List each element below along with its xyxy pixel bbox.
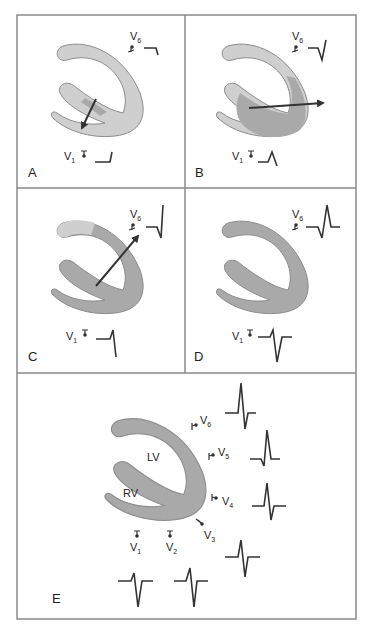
heart-diagram xyxy=(105,419,206,521)
electrode-icon xyxy=(292,45,298,52)
ecg-trace-v4 xyxy=(252,483,286,520)
lead-label-v6: V6 xyxy=(200,414,211,428)
electrode-icon xyxy=(129,223,135,230)
ecg-trace-v5 xyxy=(250,430,280,466)
lead-label-v6: V6 xyxy=(292,30,303,44)
lead-label-v1: V1 xyxy=(64,150,75,164)
ecg-trace-v6 xyxy=(225,383,256,429)
ecg-trace-v6 xyxy=(144,48,158,55)
heart-diagram xyxy=(51,44,143,136)
panel-label: D xyxy=(194,349,203,364)
lead-label-v1: V1 xyxy=(232,330,243,344)
lead-label-v1: V1 xyxy=(130,541,141,555)
electrode-icon xyxy=(209,453,215,460)
panel-c: V6 V1 C xyxy=(28,205,163,364)
electrode-icon xyxy=(134,531,140,538)
electrode-icon xyxy=(128,45,134,52)
ecg-trace-v6 xyxy=(308,40,326,60)
ecg-trace-v6 xyxy=(146,205,163,238)
lead-label-v1: V1 xyxy=(66,330,77,344)
electrode-icon xyxy=(247,330,253,337)
ecg-trace-v2 xyxy=(174,568,208,607)
chamber-label-rv: RV xyxy=(123,487,139,499)
electrode-icon xyxy=(82,330,88,337)
electrode-icon xyxy=(196,519,204,526)
lead-label-v6: V6 xyxy=(292,208,303,222)
panel-label: E xyxy=(52,591,61,606)
chamber-label-lv: LV xyxy=(147,451,160,463)
heart-diagram xyxy=(216,221,308,313)
panel-label: A xyxy=(28,165,37,180)
electrode-icon xyxy=(248,151,254,158)
panel-d: V6 V1 D xyxy=(194,205,340,364)
ecg-trace-v1 xyxy=(118,573,153,607)
heart-diagram xyxy=(51,220,143,313)
ecg-trace-v1 xyxy=(258,152,277,166)
panel-e: LV RV V6 V5 V4 V3 V1 V2 E xyxy=(52,383,286,607)
heart-diagram xyxy=(216,44,308,137)
ecg-depolarization-figure: V6 V1 A V6 V1 B V6 V1 C xyxy=(0,0,372,633)
ecg-trace-v1 xyxy=(96,330,116,357)
panel-label: C xyxy=(28,349,37,364)
electrode-icon xyxy=(212,494,218,501)
ecg-trace-v3 xyxy=(225,540,260,577)
lead-label-v4: V4 xyxy=(222,495,233,509)
lead-label-v3: V3 xyxy=(204,529,215,543)
ecg-trace-v1 xyxy=(95,152,112,162)
ecg-trace-v1 xyxy=(258,330,292,362)
electrode-icon xyxy=(292,223,298,230)
electrode-icon xyxy=(192,423,198,430)
lead-label-v2: V2 xyxy=(166,541,177,555)
electrode-icon xyxy=(81,151,87,158)
lead-label-v6: V6 xyxy=(130,208,141,222)
ecg-trace-v6 xyxy=(306,205,340,238)
panel-b: V6 V1 B xyxy=(195,30,326,180)
lead-label-v5: V5 xyxy=(218,446,229,460)
lead-label-v1: V1 xyxy=(232,150,243,164)
panel-a: V6 V1 A xyxy=(28,30,158,180)
electrode-icon xyxy=(167,531,173,538)
panel-label: B xyxy=(195,165,204,180)
lead-label-v6: V6 xyxy=(130,30,141,44)
